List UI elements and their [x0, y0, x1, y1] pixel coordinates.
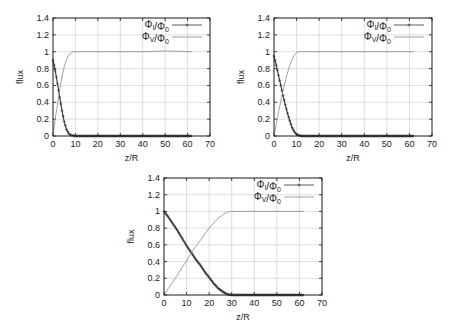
y-axis-label: flux	[236, 70, 246, 85]
x-tick-label: 20	[314, 139, 324, 149]
data-point-marker	[288, 119, 291, 122]
y-tick-label: 1	[155, 206, 160, 216]
y-tick-label: 0.6	[257, 80, 270, 90]
x-tick-label: 0	[161, 298, 166, 308]
data-point-marker	[59, 102, 62, 105]
legend-label: ΦV/Φ0	[254, 191, 281, 205]
y-tick-label: 0	[265, 131, 270, 141]
data-point-marker	[62, 115, 65, 118]
data-point-marker	[276, 69, 279, 72]
figure: 01020304050607000.20.40.60.811.21.4z/Rfl…	[0, 0, 450, 329]
grid-lines	[53, 18, 210, 136]
y-tick-label: 1.4	[257, 13, 270, 23]
x-axis-label: z/R	[346, 153, 360, 163]
x-tick-label: 10	[182, 298, 192, 308]
data-point-marker	[60, 109, 63, 112]
legend-marker-icon	[408, 24, 411, 27]
legend: ΦI/Φ0ΦV/Φ0	[142, 19, 202, 45]
series-phi-i	[273, 54, 415, 137]
y-tick-label: 0.4	[36, 97, 49, 107]
x-tick-label: 60	[294, 298, 304, 308]
legend: ΦI/Φ0ΦV/Φ0	[364, 19, 424, 45]
x-tick-label: 50	[160, 139, 170, 149]
data-point-marker	[56, 82, 59, 85]
axes: 01020304050607000.20.40.60.811.21.4z/Rfl…	[126, 173, 327, 322]
data-point-marker	[278, 79, 281, 82]
x-tick-label: 30	[337, 139, 347, 149]
plot-panel-top-right: 01020304050607000.20.40.60.811.21.4z/Rfl…	[236, 13, 437, 163]
y-tick-label: 1.2	[147, 190, 160, 200]
legend-marker-icon	[186, 24, 189, 27]
grid-lines	[274, 18, 432, 136]
x-tick-label: 50	[382, 139, 392, 149]
chart-canvas: 01020304050607000.20.40.60.811.21.4z/Rfl…	[0, 0, 450, 329]
x-tick-label: 30	[227, 298, 237, 308]
data-point-marker	[277, 74, 280, 77]
x-axis-label: z/R	[125, 153, 139, 163]
data-point-marker	[54, 69, 57, 72]
data-point-marker	[285, 108, 288, 111]
y-tick-label: 0.8	[257, 64, 270, 74]
y-axis-label: flux	[15, 70, 25, 85]
x-tick-label: 10	[70, 139, 80, 149]
x-tick-label: 70	[205, 139, 215, 149]
series-phi-v	[274, 52, 414, 136]
series-phi-v	[53, 51, 192, 136]
y-tick-label: 0.2	[36, 114, 49, 124]
x-tick-label: 40	[138, 139, 148, 149]
data-point-marker	[286, 112, 289, 115]
series-phi-i	[163, 210, 305, 297]
y-tick-label: 0.2	[257, 114, 270, 124]
y-axis-label: flux	[126, 229, 136, 244]
y-tick-label: 0.2	[147, 273, 160, 283]
x-tick-label: 60	[183, 139, 193, 149]
y-tick-label: 1	[265, 47, 270, 57]
legend-label: ΦV/Φ0	[364, 31, 391, 45]
x-axis-label: z/R	[236, 312, 250, 322]
y-tick-label: 1	[44, 47, 49, 57]
data-point-marker	[284, 103, 287, 106]
series-phi-v	[164, 211, 304, 295]
plot-panel-top-left: 01020304050607000.20.40.60.811.21.4z/Rfl…	[15, 13, 215, 163]
data-point-marker	[287, 116, 290, 119]
x-tick-label: 10	[292, 139, 302, 149]
y-tick-label: 1.2	[257, 30, 270, 40]
grid-lines	[164, 178, 322, 295]
x-tick-label: 70	[317, 298, 327, 308]
data-point-marker	[63, 120, 66, 123]
x-tick-label: 30	[115, 139, 125, 149]
x-tick-label: 70	[427, 139, 437, 149]
data-point-marker	[279, 84, 282, 87]
y-tick-label: 0.6	[36, 80, 49, 90]
x-tick-label: 40	[359, 139, 369, 149]
data-point-marker	[275, 64, 278, 67]
plot-frame	[274, 18, 432, 136]
x-tick-label: 0	[271, 139, 276, 149]
data-point-marker	[64, 124, 67, 127]
legend-label: ΦV/Φ0	[142, 31, 169, 45]
y-tick-label: 1.4	[147, 173, 160, 183]
y-tick-label: 0	[155, 290, 160, 300]
y-tick-label: 0.8	[36, 64, 49, 74]
x-tick-label: 20	[204, 298, 214, 308]
legend: ΦI/Φ0ΦV/Φ0	[254, 179, 314, 205]
y-tick-label: 1.2	[36, 30, 49, 40]
x-tick-label: 0	[50, 139, 55, 149]
x-tick-label: 40	[249, 298, 259, 308]
data-point-marker	[289, 123, 292, 126]
y-tick-label: 0.4	[147, 257, 160, 267]
plot-frame	[53, 18, 210, 136]
y-tick-label: 0	[44, 131, 49, 141]
y-tick-label: 0.8	[147, 223, 160, 233]
y-tick-label: 1.4	[36, 13, 49, 23]
axes: 01020304050607000.20.40.60.811.21.4z/Rfl…	[236, 13, 437, 163]
data-point-marker	[283, 99, 286, 102]
axes: 01020304050607000.20.40.60.811.21.4z/Rfl…	[15, 13, 215, 163]
plot-panel-bottom-center: 01020304050607000.20.40.60.811.21.4z/Rfl…	[126, 173, 327, 322]
y-tick-label: 0.6	[147, 240, 160, 250]
plot-frame	[164, 178, 322, 295]
x-tick-label: 20	[93, 139, 103, 149]
data-point-marker	[55, 76, 58, 79]
series-phi-i	[52, 59, 193, 138]
legend-marker-icon	[298, 184, 301, 187]
